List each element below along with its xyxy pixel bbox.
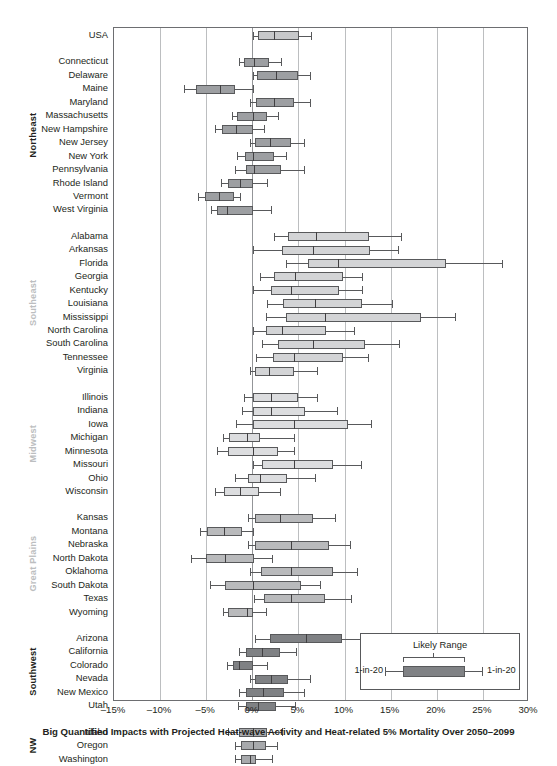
legend-label-right: 1-in-20 xyxy=(487,665,516,675)
box-plot-delaware xyxy=(114,69,527,82)
chart-row xyxy=(114,136,527,149)
legend-box xyxy=(403,666,465,677)
cap-low-icon xyxy=(266,313,267,321)
chart-row xyxy=(114,69,527,82)
cap-high-icon xyxy=(311,32,312,40)
row-label-new-hampshire: New Hampshire xyxy=(0,122,108,135)
iqr-box xyxy=(225,581,302,590)
chart-legend: Likely Range 1-in-20 1-in-20 xyxy=(360,633,520,690)
box-plot-ohio xyxy=(114,472,527,485)
row-label-south-carolina: South Carolina xyxy=(0,336,108,349)
whisker-high xyxy=(333,572,358,573)
whisker-high xyxy=(269,62,281,63)
cap-low-icon xyxy=(200,528,201,536)
x-tick-label: –10% xyxy=(136,704,182,715)
median-line xyxy=(325,313,326,322)
cap-high-icon xyxy=(350,541,351,549)
whisker-high xyxy=(362,304,392,305)
cap-low-icon xyxy=(253,286,254,294)
whisker-low xyxy=(254,599,264,600)
median-line xyxy=(253,112,254,121)
whisker-low xyxy=(244,397,253,398)
whisker-high xyxy=(274,156,285,157)
whisker-high xyxy=(254,558,272,559)
box-plot-michigan xyxy=(114,431,527,444)
x-tick-label: 20% xyxy=(413,704,459,715)
row-label-pennsylvania: Pennsylvania xyxy=(0,162,108,175)
legend-left-cap-icon xyxy=(385,667,386,676)
x-tick-label: 10% xyxy=(321,704,367,715)
chart-row xyxy=(114,190,527,203)
cap-high-icon xyxy=(317,394,318,402)
cap-low-icon xyxy=(211,206,212,214)
cap-low-icon xyxy=(242,407,243,415)
whisker-low xyxy=(248,545,255,546)
row-label-new-mexico: New Mexico xyxy=(0,685,108,698)
iqr-box xyxy=(255,138,291,147)
whisker-high xyxy=(284,692,304,693)
cap-low-icon xyxy=(191,555,192,563)
median-line xyxy=(247,433,248,442)
whisker-low xyxy=(267,304,283,305)
box-plot-connecticut xyxy=(114,55,527,68)
region-label-southeast: Southeast xyxy=(28,229,38,377)
whisker-low xyxy=(210,585,225,586)
cap-high-icon xyxy=(399,340,400,348)
median-line xyxy=(219,192,220,201)
cap-high-icon xyxy=(277,742,278,750)
box-plot-wyoming xyxy=(114,606,527,619)
whisker-high xyxy=(291,143,304,144)
chart-row xyxy=(114,565,527,578)
chart-row xyxy=(114,55,527,68)
whisker-low xyxy=(253,465,261,466)
median-line xyxy=(227,206,228,215)
median-line xyxy=(224,527,225,536)
box-plot-massachusetts xyxy=(114,109,527,122)
iqr-box xyxy=(248,474,288,483)
whisker-high xyxy=(235,89,253,90)
cap-low-icon xyxy=(198,193,199,201)
cap-high-icon xyxy=(310,99,311,107)
row-label-iowa: Iowa xyxy=(0,417,108,430)
cap-low-icon xyxy=(253,32,254,40)
chart-row xyxy=(114,82,527,95)
box-plot-maine xyxy=(114,82,527,95)
row-label-connecticut: Connecticut xyxy=(0,54,108,67)
row-label-washington: Washington xyxy=(0,752,108,765)
box-plot-pennsylvania xyxy=(114,163,527,176)
whisker-low xyxy=(217,451,228,452)
median-line xyxy=(291,286,292,295)
median-line xyxy=(253,741,254,750)
median-line xyxy=(295,272,296,281)
chart-row xyxy=(114,606,527,619)
box-plot-nebraska xyxy=(114,538,527,551)
whisker-high xyxy=(280,652,296,653)
median-line xyxy=(274,31,275,40)
whisker-low xyxy=(262,344,279,345)
box-plot-new-hampshire xyxy=(114,123,527,136)
region-label-nw: NW xyxy=(28,725,38,765)
median-line xyxy=(253,581,254,590)
whisker-high xyxy=(242,531,253,532)
whisker-high xyxy=(365,344,399,345)
row-label-indiana: Indiana xyxy=(0,403,108,416)
iqr-box xyxy=(253,393,298,402)
median-line xyxy=(274,98,275,107)
chart-row xyxy=(114,203,527,216)
cap-high-icon xyxy=(335,514,336,522)
cap-low-icon xyxy=(253,72,254,80)
whisker-high xyxy=(305,411,337,412)
whisker-high xyxy=(298,397,316,398)
row-label-new-york: New York xyxy=(0,149,108,162)
row-label-missouri: Missouri xyxy=(0,457,108,470)
box-plot-iowa xyxy=(114,418,527,431)
whisker-high xyxy=(369,236,400,237)
median-line xyxy=(250,755,251,764)
whisker-high xyxy=(288,679,310,680)
cap-high-icon xyxy=(398,246,399,254)
box-plot-new-jersey xyxy=(114,136,527,149)
cap-high-icon xyxy=(271,206,272,214)
median-line xyxy=(294,353,295,362)
cap-low-icon xyxy=(244,394,245,402)
